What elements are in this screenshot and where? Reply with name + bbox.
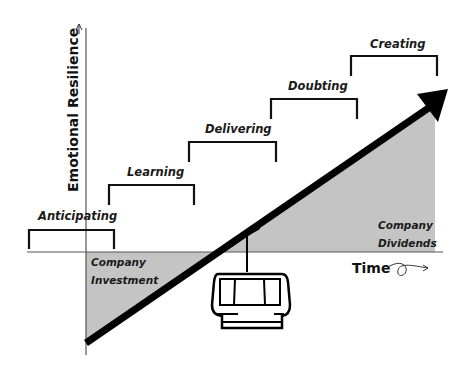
stage-bracket-learning — [109, 185, 194, 205]
investment-label-line2: Investment — [91, 274, 159, 286]
stage-label-anticipating: Anticipating — [37, 209, 117, 223]
stage-label-learning: Learning — [127, 165, 184, 179]
resilience-diagram: Anticipating Learning Delivering Doubtin… — [0, 0, 473, 375]
investment-label-line1: Company — [91, 256, 147, 268]
stage-bracket-doubting — [271, 99, 357, 119]
stage-label-doubting: Doubting — [288, 79, 348, 93]
stage-label-delivering: Delivering — [205, 122, 272, 136]
dividends-label-line2: Dividends — [378, 237, 437, 249]
stage-bracket-anticipating — [29, 230, 114, 249]
x-axis-title: Time — [352, 260, 390, 276]
dividends-label-line1: Company — [378, 219, 434, 231]
stage-bracket-delivering — [189, 142, 276, 162]
y-axis-title: Emotional Resilience — [65, 28, 81, 192]
stage-bracket-creating — [351, 56, 437, 76]
x-axis-squiggle-arrow-icon — [388, 263, 428, 275]
stage-label-creating: Creating — [370, 37, 426, 51]
